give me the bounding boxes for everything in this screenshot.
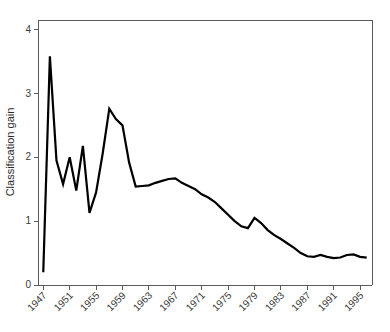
x-tick-label: 1955 [78, 289, 102, 313]
x-tick-label: 1995 [342, 289, 366, 313]
x-tick-label: 1947 [25, 289, 49, 313]
x-tick-label: 1987 [289, 289, 313, 313]
y-tick-label: 1 [25, 215, 31, 226]
chart-canvas: 01234 1947195119551959196319671971197519… [0, 0, 390, 332]
x-tick-label: 1963 [131, 289, 155, 313]
axes [38, 20, 372, 285]
y-tick-label: 3 [25, 88, 31, 99]
x-axis-ticks: 1947195119551959196319671971197519791983… [25, 285, 366, 313]
y-tick-label: 0 [25, 279, 31, 290]
series-line [43, 56, 366, 272]
x-tick-label: 1975 [210, 289, 234, 313]
y-axis-ticks: 01234 [25, 24, 38, 290]
classification-gain-chart: 01234 1947195119551959196319671971197519… [0, 0, 390, 332]
data-series [43, 56, 366, 272]
y-tick-label: 2 [25, 151, 31, 162]
x-tick-label: 1983 [263, 289, 287, 313]
x-tick-label: 1991 [316, 289, 340, 313]
x-tick-label: 1967 [157, 289, 181, 313]
y-axis-title: Classification gain [4, 108, 16, 197]
x-tick-label: 1971 [184, 289, 208, 313]
y-tick-label: 4 [25, 24, 31, 35]
x-tick-label: 1979 [236, 289, 260, 313]
x-tick-label: 1951 [52, 289, 76, 313]
x-tick-label: 1959 [104, 289, 128, 313]
